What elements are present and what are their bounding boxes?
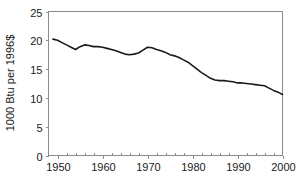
data-series-line: [53, 39, 283, 94]
x-tick-label: 1990: [226, 161, 250, 173]
y-axis-title: 1000 Btu per 1996$: [4, 35, 16, 132]
x-tick-label: 2000: [271, 161, 295, 173]
chart-container: 0510152025 195019601970198019902000 1000…: [0, 0, 302, 184]
y-tick-label: 25: [30, 7, 42, 19]
line-chart: 0510152025 195019601970198019902000 1000…: [0, 0, 302, 184]
y-tick-label: 20: [30, 35, 42, 47]
y-tick-label: 10: [30, 93, 42, 105]
y-axis-tick-labels: 0510152025: [30, 7, 42, 163]
y-tick-label: 5: [36, 122, 42, 134]
x-tick-label: 1960: [91, 161, 115, 173]
x-tick-label: 1980: [181, 161, 205, 173]
y-tick-label: 0: [36, 151, 42, 163]
x-axis-tick-labels: 195019601970198019902000: [46, 161, 295, 173]
series-line-energy-intensity: [53, 39, 283, 94]
y-tick-label: 15: [30, 64, 42, 76]
x-tick-label: 1950: [46, 161, 70, 173]
x-tick-label: 1970: [136, 161, 160, 173]
